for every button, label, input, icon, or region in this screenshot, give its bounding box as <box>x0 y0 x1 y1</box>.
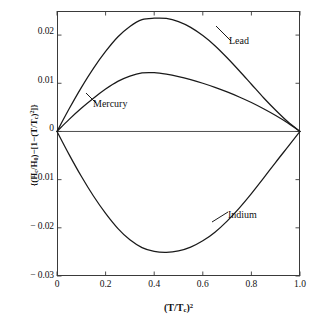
x-ticklabel: 0.4 <box>134 279 174 290</box>
tick-marks <box>57 11 300 276</box>
series-lines <box>57 18 300 252</box>
curve-lead <box>57 18 300 131</box>
y-axis-title-text: {(Hc/H0)−[1−(T/Tc)2]} <box>29 104 39 186</box>
curve-indium <box>57 131 300 252</box>
x-ticklabel: 0 <box>37 279 77 290</box>
y-axis-title-holder: {(Hc/H0)−[1−(T/Tc)2]} <box>0 0 32 328</box>
x-ticklabel: 1.0 <box>280 279 318 290</box>
annotation-leader-lines <box>86 26 231 222</box>
series-label-lead: Lead <box>229 35 249 46</box>
series-label-mercury: Mercury <box>93 98 127 109</box>
y-axis-title: {(Hc/H0)−[1−(T/Tc)2]} <box>29 45 39 245</box>
x-ticklabel: 0.8 <box>231 279 271 290</box>
x-axis-title: (T/Tc)2 <box>57 302 300 313</box>
leader-indium <box>212 212 228 222</box>
x-ticklabel: 0.6 <box>183 279 223 290</box>
x-ticklabel: 0.2 <box>86 279 126 290</box>
x-axis-title-text: (T/Tc)2 <box>164 302 193 313</box>
series-label-indium: Indium <box>228 209 257 220</box>
chart-figure: 0.02 0.01 0 − 0.01 − 0.02 − 0.03 0 0.2 0… <box>0 0 318 328</box>
